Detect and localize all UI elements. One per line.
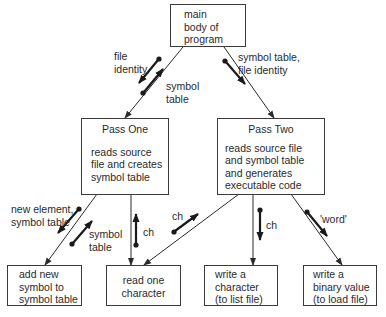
node-text: character bbox=[215, 281, 277, 294]
node-text: body of bbox=[184, 21, 245, 34]
node-text: program bbox=[184, 33, 245, 46]
label-text: symbol table bbox=[11, 216, 73, 229]
label-text: file bbox=[114, 50, 147, 63]
flow-label-new-element: new element, symbol table bbox=[11, 203, 73, 228]
call-line-pass-two-write-binary bbox=[291, 194, 342, 265]
flow-label-symbol-table-file-identity: symbol table, file identity bbox=[238, 51, 300, 76]
node-write-binary: write a binary value (to load file) bbox=[303, 265, 377, 306]
node-text: reads source file bbox=[225, 142, 324, 155]
node-text: and symbol table bbox=[225, 154, 324, 167]
label-text: table bbox=[89, 241, 122, 254]
flow-label-symbol-table-return: symbol table bbox=[89, 228, 122, 253]
label-text: 'word' bbox=[320, 213, 347, 225]
flow-arrow-ch-pass-one bbox=[133, 214, 138, 248]
label-text: symbol table, bbox=[238, 51, 300, 64]
node-title: Pass One bbox=[82, 123, 168, 136]
node-text: symbol table bbox=[91, 171, 168, 184]
flow-label-ch-pass-two-read: ch bbox=[172, 210, 183, 223]
label-text: ch bbox=[266, 219, 277, 231]
node-title: Pass Two bbox=[218, 123, 324, 136]
label-text: table bbox=[166, 93, 199, 106]
label-text: identity bbox=[114, 63, 147, 76]
node-write-character: write a character (to list file) bbox=[204, 265, 278, 306]
node-text: write a bbox=[215, 268, 277, 281]
label-text: new element, bbox=[11, 203, 73, 216]
label-text: ch bbox=[172, 210, 183, 222]
node-pass-two: Pass Two reads source file and symbol ta… bbox=[217, 118, 325, 195]
node-text: write a bbox=[313, 268, 376, 281]
node-text: character bbox=[107, 287, 180, 300]
label-text: file identity bbox=[238, 64, 300, 77]
node-text: read one bbox=[107, 274, 180, 287]
label-text: symbol bbox=[166, 80, 199, 93]
node-text: (to load file) bbox=[313, 293, 376, 306]
call-line-pass-two-read bbox=[144, 194, 239, 265]
node-text: reads source bbox=[91, 146, 168, 159]
node-main-program: main body of program bbox=[170, 4, 246, 47]
label-text: symbol bbox=[89, 228, 122, 241]
node-text: and generates bbox=[225, 167, 324, 180]
node-text: (to list file) bbox=[215, 293, 277, 306]
node-text: executable code bbox=[225, 179, 324, 192]
node-text: symbol to bbox=[19, 281, 81, 294]
node-text: main bbox=[184, 8, 245, 21]
flow-label-symbol-table-up: symbol table bbox=[166, 80, 199, 105]
node-read-character: read one character bbox=[106, 265, 181, 306]
node-text: symbol table bbox=[19, 293, 81, 306]
node-text: file and creates bbox=[91, 158, 168, 171]
label-text: ch bbox=[143, 226, 154, 238]
flow-label-word: 'word' bbox=[320, 213, 347, 226]
node-add-symbol: add new symbol to symbol table bbox=[7, 265, 82, 306]
node-text: binary value bbox=[313, 281, 376, 294]
flow-label-ch-pass-one: ch bbox=[143, 226, 154, 239]
node-text: add new bbox=[19, 268, 81, 281]
flow-label-ch-write-char: ch bbox=[266, 219, 277, 232]
flow-arrow-ch-write-char bbox=[257, 207, 262, 240]
node-pass-one: Pass One reads source file and creates s… bbox=[81, 118, 169, 195]
flow-label-file-identity: file identity bbox=[114, 50, 147, 75]
